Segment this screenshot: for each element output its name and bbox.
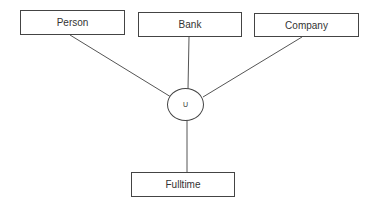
union-label: U (183, 101, 188, 108)
entity-label: Fulltime (165, 179, 200, 190)
entity-person[interactable]: Person (20, 10, 125, 35)
entity-bank[interactable]: Bank (138, 12, 242, 37)
union-node[interactable]: U (167, 88, 204, 121)
entity-label: Person (57, 17, 89, 28)
entity-label: Bank (179, 19, 202, 30)
entity-label: Company (285, 20, 328, 31)
entity-company[interactable]: Company (254, 13, 359, 37)
entity-fulltime[interactable]: Fulltime (131, 172, 235, 197)
